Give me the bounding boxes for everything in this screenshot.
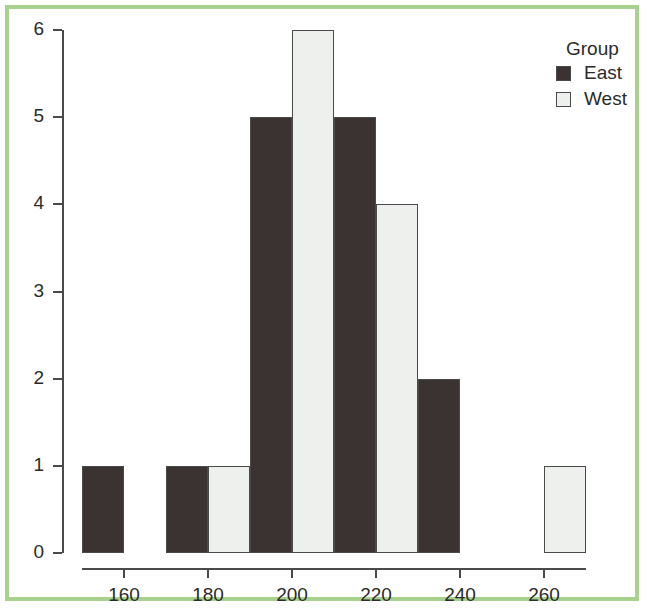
legend-label-east: East xyxy=(584,62,622,84)
y-tick-label: 1 xyxy=(4,454,44,476)
x-tick xyxy=(375,568,377,578)
y-tick-label: 0 xyxy=(4,541,44,563)
y-axis-line xyxy=(62,30,64,553)
bar-east-160 xyxy=(82,466,124,553)
bar-west-260 xyxy=(544,466,586,553)
bar-west-220 xyxy=(376,204,418,553)
y-tick-label: 5 xyxy=(4,105,44,127)
bar-west-200 xyxy=(292,30,334,553)
chart-page: 0123456160180200220240260 Group EastWest xyxy=(0,0,648,610)
legend-swatch-west xyxy=(556,92,571,107)
y-tick-label: 6 xyxy=(4,18,44,40)
y-tick xyxy=(53,378,62,380)
y-tick xyxy=(53,203,62,205)
x-tick-label: 180 xyxy=(168,584,248,606)
y-tick-label: 2 xyxy=(4,367,44,389)
x-tick-label: 260 xyxy=(504,584,584,606)
bar-chart: 0123456160180200220240260 xyxy=(0,0,648,610)
x-tick-label: 240 xyxy=(420,584,500,606)
x-tick xyxy=(207,568,209,578)
x-tick-label: 200 xyxy=(252,584,332,606)
y-tick-label: 4 xyxy=(4,192,44,214)
legend-swatch-east xyxy=(556,66,571,81)
x-tick-label: 220 xyxy=(336,584,416,606)
bar-east-240 xyxy=(418,379,460,553)
x-tick xyxy=(543,568,545,578)
bar-east-220 xyxy=(334,117,376,553)
y-tick xyxy=(53,116,62,118)
y-tick xyxy=(53,465,62,467)
y-tick-label: 3 xyxy=(4,280,44,302)
bar-east-180 xyxy=(166,466,208,553)
bar-west-180 xyxy=(208,466,250,553)
x-tick xyxy=(459,568,461,578)
bar-east-200 xyxy=(250,117,292,553)
y-tick xyxy=(53,552,62,554)
y-tick xyxy=(53,29,62,31)
x-tick xyxy=(291,568,293,578)
x-tick-label: 160 xyxy=(84,584,164,606)
x-tick xyxy=(123,568,125,578)
legend-title: Group xyxy=(566,38,619,60)
legend-label-west: West xyxy=(584,88,627,110)
x-axis-line xyxy=(82,568,586,570)
y-tick xyxy=(53,291,62,293)
